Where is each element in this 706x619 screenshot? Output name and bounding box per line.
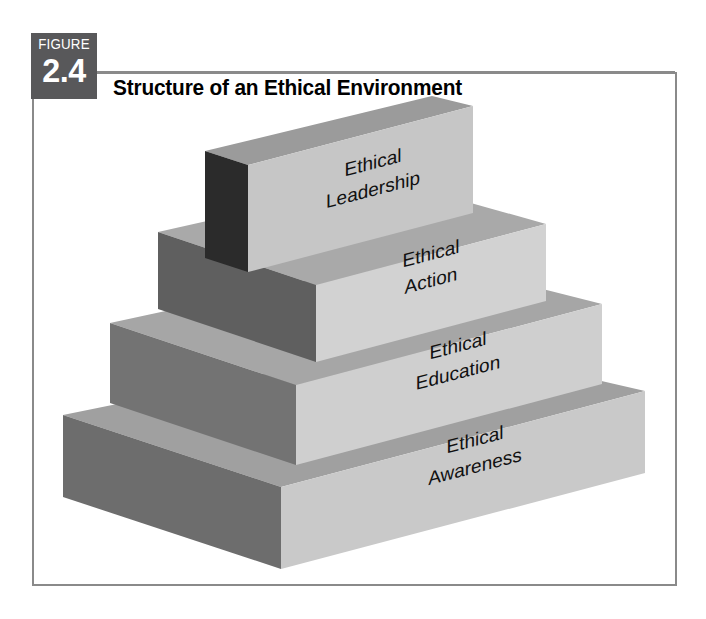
title-rule-divider [97,71,675,74]
tier-leadership-left-face [205,151,248,272]
pyramid-svg: Ethical Awareness Ethical Education [33,74,676,586]
figure-badge-word: FIGURE [34,37,95,52]
page-title: Structure of an Ethical Environment [113,76,462,101]
pyramid-diagram: Ethical Awareness Ethical Education [33,74,676,586]
figure-badge-number: 2.4 [33,52,96,88]
figure-container: FIGURE 2.4 Structure of an Ethical Envir… [0,0,706,619]
figure-number-badge: FIGURE 2.4 [31,33,97,99]
